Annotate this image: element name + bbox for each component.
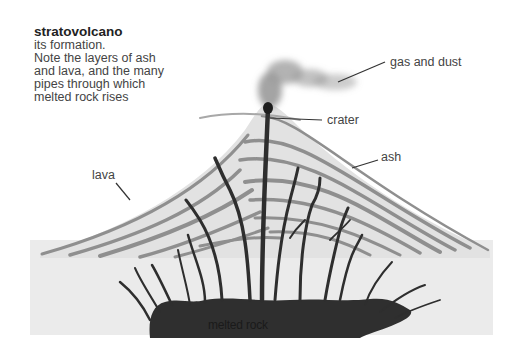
label-lava: lava: [92, 168, 115, 182]
stratovolcano-illustration: [0, 0, 515, 350]
smoke-plume: [258, 60, 357, 108]
label-melted-rock: melted rock: [208, 318, 268, 332]
crater-vent: [263, 102, 273, 114]
magma-chamber: [150, 299, 412, 338]
label-gas-and-dust: gas and dust: [390, 55, 462, 69]
label-ash: ash: [381, 150, 401, 164]
label-crater: crater: [327, 113, 359, 127]
